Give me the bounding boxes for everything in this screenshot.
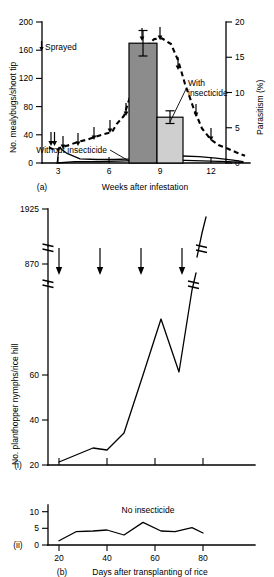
panel-b-i-ytick-40: 40 [30, 415, 40, 425]
panel-a-sprayed-legend: Sprayed [39, 41, 77, 52]
panel-a-ytick-r0: 0 [235, 158, 240, 168]
panel-b-sub-ii-label: (ii) [13, 540, 23, 550]
spray-arrow [97, 248, 103, 275]
spray-arrow [56, 248, 62, 275]
panel-b-ii-ytick-0: 0 [34, 540, 39, 550]
scientific-figure: 0 40 80 120 160 200 0 5 10 15 20 3 6 9 1… [0, 0, 274, 577]
panel-a-ytick-r5: 5 [235, 123, 240, 133]
panel-b-ii-xtick-80: 80 [198, 553, 208, 563]
sprayed-label: Sprayed [45, 42, 77, 52]
panel-a-ytick-r10: 10 [235, 88, 245, 98]
panel-b-i-chart: 1925 870 60 40 20 [0, 195, 274, 505]
panel-b-ii-xtick-20: 20 [54, 553, 64, 563]
panel-a-label: (a) [37, 182, 48, 192]
panel-b-ii-ytick-5: 5 [34, 523, 39, 533]
panel-a-ytick-120: 120 [19, 73, 33, 83]
panel-b-ii-xtick-60: 60 [150, 553, 160, 563]
panel-a-ylabel-right: Parasitism (%) [255, 80, 265, 135]
panel-a-ylabel-left: No. mealybugs/shoot tip [8, 62, 18, 153]
panel-b-i-ytick-20: 20 [30, 460, 40, 470]
panel-b-label: (b) [57, 567, 68, 577]
panel-b-sub-i-label: (i) [14, 460, 22, 470]
spray-arrow [179, 248, 185, 275]
panel-a-xlabel: Weeks after infestation [102, 182, 189, 192]
spray-arrow [209, 128, 214, 141]
panel-a-ytick-r20: 20 [235, 17, 245, 27]
spray-arrow [52, 132, 57, 146]
panel-a-xtick-9: 9 [158, 166, 163, 176]
panel-b-ii-y-ticks [42, 512, 48, 545]
panel-b-ii-chart: 0 5 10 20 40 60 80 No insecticide (ii) D… [0, 497, 274, 577]
panel-b-ii-x-ticks [59, 545, 203, 551]
bar-without-insecticide [129, 43, 157, 163]
panel-b-ii-xtick-40: 40 [102, 553, 112, 563]
panel-a-ytick-80: 80 [24, 102, 34, 112]
panel-b-ii-data-line [59, 522, 203, 540]
panel-a-ytick-0: 0 [28, 158, 33, 168]
panel-b-i-ytick-60: 60 [30, 370, 40, 380]
panel-b-ii-ytick-10: 10 [30, 507, 40, 517]
panel-b-i-spray-arrows [56, 248, 185, 275]
panel-b-ylabel: No. planthopper nymphs/rice hill [10, 343, 20, 465]
spray-arrow [138, 248, 144, 275]
panel-a-ytick-r15: 15 [235, 52, 245, 62]
panel-b-i-data-line [59, 273, 196, 462]
panel-b-i-y-ticks [42, 209, 48, 465]
panel-a-xtick-12: 12 [206, 166, 216, 176]
panel-a-xtick-6: 6 [107, 166, 112, 176]
panel-a-chart: 0 40 80 120 160 200 0 5 10 15 20 3 6 9 1… [0, 0, 274, 195]
panel-a-ytick-160: 160 [19, 45, 33, 55]
panel-a-ytick-200: 200 [19, 17, 33, 27]
panel-b-i-x-ticks [59, 458, 203, 465]
spray-arrow [194, 104, 199, 117]
with-insecticide-label-line2: insecticide [188, 88, 228, 98]
spray-arrow [48, 132, 53, 146]
without-insecticide-label: Without insecticide [36, 145, 107, 155]
with-insecticide-label-line1: With [188, 78, 205, 88]
panel-a-xtick-3: 3 [56, 166, 61, 176]
panel-b-xlabel: Days after transplanting of rice [92, 567, 208, 577]
panel-a-ytick-40: 40 [24, 130, 34, 140]
no-insecticide-label: No insecticide [122, 505, 175, 515]
panel-b-i-ytick-1925: 1925 [20, 204, 39, 214]
panel-b-i-ytick-870: 870 [25, 259, 39, 269]
